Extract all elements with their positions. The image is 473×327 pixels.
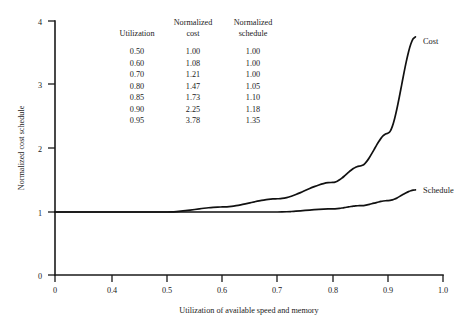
normalized-cost-schedule-chart: 4 3 2 1 0 0 0.4 0.5 0.6 0.7 0.8 0.9 1.0: [0, 0, 473, 327]
x-tick-label-1-0: 1.0: [438, 286, 448, 295]
table-cell-utilization: 0.90: [130, 105, 144, 114]
table-cell-utilization: 0.95: [130, 116, 144, 125]
series-label-schedule: Schedule: [423, 186, 454, 195]
y-axis-title: Normalized cost schedule: [17, 105, 26, 190]
x-tick-label-0-8: 0.8: [328, 286, 338, 295]
table-cell-cost: 3.78: [186, 116, 200, 125]
inset-data-table: Utilization Normalized cost Normalized s…: [119, 18, 272, 125]
table-cell-schedule: 1.00: [246, 47, 260, 56]
chart-figure: 4 3 2 1 0 0 0.4 0.5 0.6 0.7 0.8 0.9 1.0: [0, 0, 473, 327]
x-tick-label-0: 0: [53, 286, 57, 295]
y-tick-label-3: 3: [38, 81, 42, 90]
x-tick-label-0-7: 0.7: [272, 286, 282, 295]
table-cell-utilization: 0.80: [130, 82, 144, 91]
chart-background: [0, 0, 473, 327]
table-cell-cost: 1.08: [186, 59, 200, 68]
table-header-cost-line1: Normalized: [174, 18, 213, 27]
table-cell-cost: 1.21: [186, 70, 200, 79]
table-cell-schedule: 1.10: [246, 93, 260, 102]
x-tick-label-0-4: 0.4: [107, 286, 117, 295]
y-tick-label-4: 4: [38, 18, 42, 27]
table-cell-schedule: 1.05: [246, 82, 260, 91]
series-label-cost: Cost: [423, 37, 439, 46]
y-tick-label-2: 2: [38, 145, 42, 154]
x-axis-title: Utilization of available speed and memor…: [179, 306, 319, 315]
x-tick-label-0-5: 0.5: [162, 286, 172, 295]
table-cell-cost: 1.00: [186, 47, 200, 56]
x-tick-label-0-9: 0.9: [383, 286, 393, 295]
y-tick-label-0: 0: [38, 272, 42, 281]
table-cell-cost: 1.73: [186, 93, 200, 102]
table-cell-schedule: 1.00: [246, 59, 260, 68]
table-cell-schedule: 1.00: [246, 70, 260, 79]
table-cell-utilization: 0.85: [130, 93, 144, 102]
table-cell-schedule: 1.18: [246, 105, 260, 114]
table-cell-utilization: 0.60: [130, 59, 144, 68]
y-tick-label-1: 1: [38, 209, 42, 218]
table-header-utilization-line2: Utilization: [119, 29, 154, 38]
table-header-schedule-line1: Normalized: [234, 18, 273, 27]
table-cell-schedule: 1.35: [246, 116, 260, 125]
table-cell-cost: 2.25: [186, 105, 200, 114]
table-cell-utilization: 0.50: [130, 47, 144, 56]
table-cell-cost: 1.47: [186, 82, 200, 91]
x-tick-label-0-6: 0.6: [217, 286, 227, 295]
table-header-schedule-line2: schedule: [239, 29, 268, 38]
table-header-cost-line2: cost: [186, 29, 200, 38]
table-cell-utilization: 0.70: [130, 70, 144, 79]
